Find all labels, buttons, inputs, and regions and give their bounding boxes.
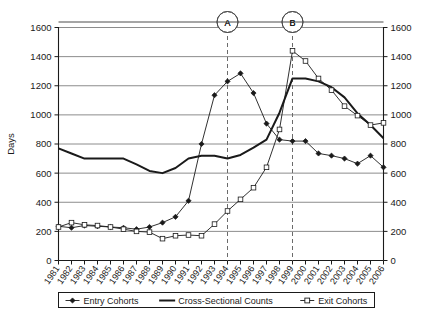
- legend-item-exit-cohorts-label: Exit Cohorts: [318, 296, 368, 306]
- marker-exit-cohorts-2000: [303, 59, 308, 64]
- marker-exit-cohorts-1988: [147, 230, 152, 235]
- marker-exit-cohorts-1996: [251, 185, 256, 190]
- y-axis-label-1200: 1200: [30, 80, 51, 91]
- annotation-label-top-A: A: [224, 18, 230, 28]
- legend-item-exit-cohorts-marker-icon: [305, 298, 310, 303]
- y-axis-right-label-1000: 1000: [391, 109, 412, 120]
- y-axis-right-label-600: 600: [391, 168, 407, 179]
- marker-exit-cohorts-1982: [69, 220, 74, 225]
- marker-exit-cohorts-1990: [173, 233, 178, 238]
- marker-exit-cohorts-2002: [329, 88, 334, 93]
- marker-exit-cohorts-1983: [82, 223, 87, 228]
- y-axis-label-600: 600: [36, 168, 52, 179]
- chart-figure: 0020020040040060060080080010001000120012…: [0, 0, 448, 321]
- y-axis-label-0: 0: [46, 255, 51, 266]
- y-axis-right-label-1200: 1200: [391, 80, 412, 91]
- y-axis-label-400: 400: [36, 197, 52, 208]
- marker-exit-cohorts-1986: [121, 227, 126, 232]
- marker-exit-cohorts-1995: [238, 197, 243, 202]
- y-axis-right-label-0: 0: [391, 255, 396, 266]
- marker-exit-cohorts-1997: [264, 165, 269, 170]
- line-chart: 0020020040040060060080080010001000120012…: [0, 0, 448, 321]
- marker-exit-cohorts-2005: [368, 123, 373, 128]
- y-axis-label-1600: 1600: [30, 22, 51, 33]
- marker-exit-cohorts-2003: [342, 104, 347, 109]
- marker-exit-cohorts-1985: [108, 225, 113, 230]
- y-axis-right-label-800: 800: [391, 138, 407, 149]
- y-axis-label-800: 800: [36, 138, 52, 149]
- marker-exit-cohorts-2001: [316, 76, 321, 81]
- marker-exit-cohorts-2004: [355, 113, 360, 118]
- marker-exit-cohorts-2006: [381, 121, 386, 126]
- annotation-label-top-B: B: [289, 18, 295, 28]
- marker-exit-cohorts-1984: [95, 223, 100, 228]
- y-axis-right-label-1600: 1600: [391, 22, 412, 33]
- marker-exit-cohorts-1991: [186, 233, 191, 238]
- y-axis-label-1400: 1400: [30, 51, 51, 62]
- marker-exit-cohorts-1981: [56, 225, 61, 230]
- marker-exit-cohorts-1998: [277, 127, 282, 132]
- marker-exit-cohorts-1992: [199, 233, 204, 238]
- legend-item-entry-cohorts-label: Entry Cohorts: [84, 296, 140, 306]
- marker-exit-cohorts-1989: [160, 236, 165, 241]
- y-axis-label-1000: 1000: [30, 109, 51, 120]
- marker-exit-cohorts-1987: [134, 229, 139, 234]
- y-axis-right-label-400: 400: [391, 197, 407, 208]
- y-axis-right-label-200: 200: [391, 226, 407, 237]
- y-axis-right-label-1400: 1400: [391, 51, 412, 62]
- y-axis-label-200: 200: [36, 226, 52, 237]
- marker-exit-cohorts-1993: [212, 222, 217, 227]
- legend-item-cross-sectional-counts-label: Cross-Sectional Counts: [178, 296, 273, 306]
- y-axis-title: Days: [5, 133, 16, 155]
- marker-exit-cohorts-1999: [290, 49, 295, 54]
- marker-exit-cohorts-1994: [225, 209, 230, 214]
